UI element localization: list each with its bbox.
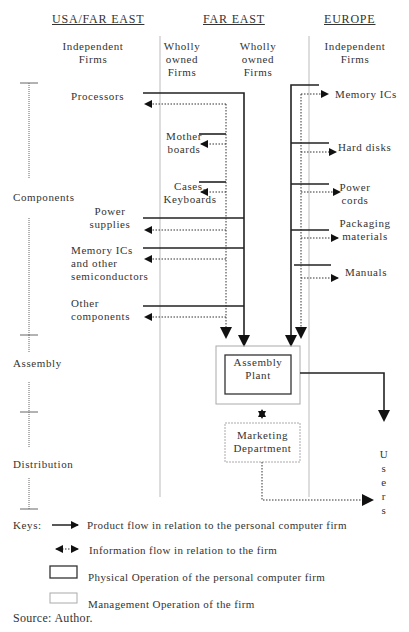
subheader-usa-independent: Independent Firms [58, 40, 128, 66]
supplier-other-components: Other components [71, 297, 130, 323]
europe-information-flow [301, 94, 340, 337]
supplier-packaging-materials: Packaging materials [337, 217, 393, 243]
supplier-power-cords: Power cords [338, 181, 372, 207]
subheader-eu-independent: Independent Firms [320, 40, 390, 66]
europe-product-flow [291, 85, 331, 345]
supplier-cases-keyboards: Cases, Keyboards [162, 180, 218, 206]
supplier-motherboards: Mother boards [162, 130, 206, 156]
subheader-fe-wholly-right: Wholly owned Firms [236, 40, 280, 79]
subheader-fe-wholly-left: Wholly owned Firms [160, 40, 204, 79]
marketing-department-label: Marketing Department [225, 429, 300, 455]
supplier-hard-disks: Hard disks [338, 141, 391, 154]
users-label: U s e r s [379, 447, 389, 517]
supplier-manuals: Manuals [345, 266, 387, 279]
key-information-flow-text: Information flow in relation to the firm [89, 544, 277, 557]
assembly-to-users-flow [300, 373, 384, 420]
supplier-eu-memory-ics: Memory ICs [335, 88, 397, 101]
key-product-flow-text: Product flow in relation to the personal… [87, 519, 347, 532]
key-physical-operation-text: Physical Operation of the personal compu… [88, 571, 325, 584]
stage-brackets [20, 83, 38, 509]
assembly-plant-label: Assembly Plant [225, 356, 291, 382]
supplier-processors: Processors [71, 90, 124, 103]
header-far-east: FAR EAST [203, 12, 265, 27]
stage-distribution: Distribution [13, 458, 73, 471]
supplier-power-supplies: Power supplies [88, 205, 132, 231]
key-management-operation-text: Management Operation of the firm [88, 598, 255, 611]
key-physical-box [50, 566, 77, 578]
stage-assembly: Assembly [13, 357, 62, 370]
header-usa-far-east: USA/FAR EAST [52, 12, 144, 27]
source-text: Source: Author. [13, 612, 93, 625]
keys-label: Keys: [13, 519, 42, 532]
header-europe: EUROPE [324, 12, 375, 27]
supplier-memory-ics-semiconductors: Memory ICs and other semiconductors [71, 244, 148, 283]
key-management-box [50, 593, 77, 603]
stage-components: Components [13, 191, 75, 204]
marketing-to-users-flow [262, 462, 372, 500]
